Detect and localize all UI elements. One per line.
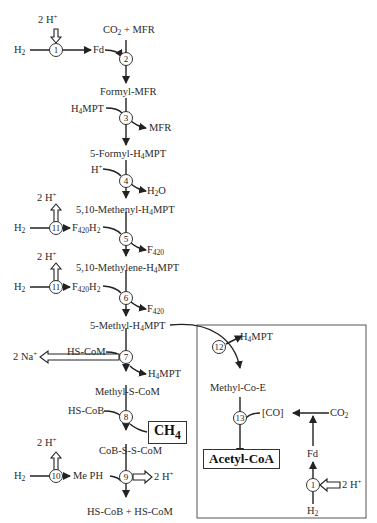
acetyl-coa-pathway-box [197, 325, 366, 518]
hs-com-label: HS-CoM [67, 346, 106, 358]
formyl-mfr-label: Formyl-MFR [100, 86, 157, 98]
proton-label-11b: 2 H+ [37, 251, 56, 263]
hs-cob-hs-com-label: HS-CoB + HS-CoM [87, 506, 173, 518]
h2-label-10: H2 [14, 470, 25, 482]
methyl-co-e-label: Methyl-Co-E [210, 382, 266, 394]
methylene-h4mpt-label: 5,10-Methylene-H4MPT [76, 262, 179, 274]
step-1-circle: 1 [49, 43, 63, 57]
step-3-circle: 3 [119, 111, 133, 125]
me-ph-label: Me PH [73, 470, 103, 482]
step-5-circle: 5 [119, 232, 133, 246]
step-2-circle: 2 [119, 52, 133, 66]
step-11b-circle: 11 [49, 280, 63, 294]
formyl-h4mpt-label: 5-Formyl-H4MPT [90, 148, 166, 160]
step-1b-circle: 1 [306, 478, 320, 492]
step-7-circle: 7 [119, 350, 133, 364]
methyl-h4mpt-label: 5-Methyl-H4MPT [90, 320, 166, 332]
f420-out-label-5: F420 [147, 244, 164, 256]
pathway-arrows [0, 0, 377, 523]
h2-label-1: H2 [14, 44, 25, 56]
co2-mfr-label: CO2 + MFR [103, 24, 155, 36]
step-12-circle: 12 [212, 340, 226, 354]
h2-label-11b: H2 [14, 281, 25, 293]
h-plus-label: H+ [91, 164, 103, 176]
fd-label-right: Fd [307, 448, 318, 460]
h2-label-right: H2 [307, 505, 318, 517]
h2o-label: H2O [147, 185, 166, 197]
h4mpt-in-label-3: H4MPT [71, 103, 104, 115]
proton-label-10: 2 H+ [37, 437, 56, 449]
sodium-label: 2 Na+ [13, 351, 37, 363]
step-11a-circle: 11 [49, 221, 63, 235]
co-bracket-label: [CO] [262, 407, 284, 419]
step-8-circle: 8 [119, 410, 133, 424]
f420-out-label-6: F420 [147, 303, 164, 315]
proton-out-label-9: 2 H+ [154, 471, 173, 483]
step-9-circle: 9 [119, 470, 133, 484]
proton-arrow-in [51, 29, 61, 43]
h4mpt-out-label-7: H4MPT [148, 368, 181, 380]
methane-product-box: CH4 [148, 421, 187, 444]
proton-label-1b: 2 H+ [342, 479, 361, 491]
h2-label-11a: H2 [14, 222, 25, 234]
mfr-out-label: MFR [149, 122, 171, 134]
f420h2-label-5: F420H2 [72, 222, 100, 234]
co2-label-right: CO2 [330, 407, 348, 419]
h4mpt-out-label-12: H4MPT [240, 331, 273, 343]
acetyl-coa-product-box: Acetyl-CoA [203, 449, 280, 469]
step-10-circle: 10 [49, 469, 63, 483]
step-4-circle: 4 [119, 174, 133, 188]
methenyl-h4mpt-label: 5,10-Methenyl-H4MPT [76, 204, 175, 216]
step-13-circle: 13 [233, 411, 247, 425]
cob-s-s-com-label: CoB-S-S-CoM [99, 445, 162, 457]
fd-label: Fd [93, 44, 104, 56]
hs-cob-label: HS-CoB [68, 405, 104, 417]
step-6-circle: 6 [119, 291, 133, 305]
methyl-s-com-label: Methyl-S-CoM [95, 386, 160, 398]
f420h2-label-6: F420H2 [72, 281, 100, 293]
proton-label-1: 2 H+ [38, 14, 57, 26]
proton-label-11a: 2 H+ [37, 192, 56, 204]
